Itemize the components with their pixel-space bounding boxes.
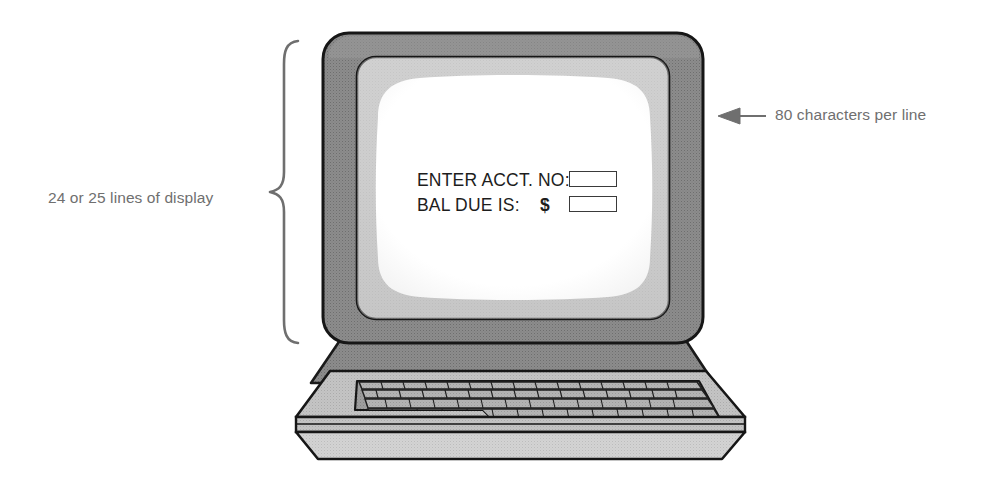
lines-brace-marker bbox=[270, 41, 298, 343]
acct-input-field[interactable] bbox=[569, 171, 617, 187]
chars-arrow-marker bbox=[718, 108, 766, 124]
diagram-stage: ENTER ACCT. NO: BAL DUE IS: $ 24 or 25 l… bbox=[0, 0, 1003, 491]
bal-input-field[interactable] bbox=[569, 196, 617, 212]
terminal-illustration bbox=[0, 0, 1003, 491]
acct-label: ENTER ACCT. NO: bbox=[417, 168, 570, 193]
lines-annotation-label: 24 or 25 lines of display bbox=[48, 189, 213, 207]
chars-annotation-label: 80 characters per line bbox=[775, 106, 926, 124]
bal-label: BAL DUE IS: bbox=[417, 193, 520, 218]
keyboard bbox=[296, 371, 745, 459]
currency-symbol: $ bbox=[540, 193, 550, 218]
